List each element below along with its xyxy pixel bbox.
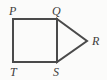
figure-svg-canvas: P Q R S T <box>0 0 107 80</box>
vertex-label-S: S <box>53 65 59 79</box>
geometry-figure: P Q R S T <box>0 0 107 80</box>
vertex-label-Q: Q <box>52 4 61 18</box>
vertex-label-P: P <box>8 4 17 18</box>
vertex-label-R: R <box>91 34 100 48</box>
